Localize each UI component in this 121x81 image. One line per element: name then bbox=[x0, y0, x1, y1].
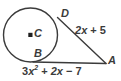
expr-ba-term1-exponent: 2 bbox=[34, 64, 38, 71]
expr-ba-operator1: + bbox=[41, 65, 47, 77]
expr-ba-term3: 7 bbox=[76, 65, 82, 77]
point-label-a: A bbox=[108, 55, 116, 66]
point-label-b: B bbox=[34, 48, 42, 59]
point-label-c: C bbox=[34, 28, 42, 39]
tangent-circle-diagram: D C B A 2x + 5 3x2 + 2x − 7 bbox=[0, 0, 121, 81]
expr-da-operator: + bbox=[90, 24, 96, 36]
expr-da-coefficient-variable: 2x bbox=[75, 24, 87, 36]
expr-da-variable: x bbox=[81, 24, 87, 36]
expr-da-constant: 5 bbox=[100, 24, 106, 36]
tangent-da-length-label: 2x + 5 bbox=[75, 25, 106, 36]
tangent-ba-length-label: 3x2 + 2x − 7 bbox=[22, 66, 82, 77]
tangent-segment-ba bbox=[33, 62, 106, 64]
point-label-d: D bbox=[61, 8, 69, 19]
expr-ba-operator2: − bbox=[66, 65, 72, 77]
expr-ba-term2: 2x bbox=[51, 65, 63, 77]
center-point-marker bbox=[28, 33, 32, 37]
